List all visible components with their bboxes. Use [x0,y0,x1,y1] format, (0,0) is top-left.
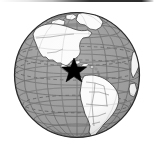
globe-locator-map [0,0,154,147]
globe-svg [0,0,154,147]
globe-figure-canvas: Orthographic globe centered on the Ameri… [0,0,154,147]
